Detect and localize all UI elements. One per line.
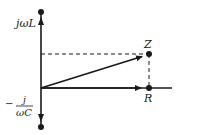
- resistance-label: R: [143, 92, 152, 105]
- capacitive-denominator: ωC: [16, 107, 32, 118]
- inductive-label: jωL: [13, 17, 36, 30]
- impedance-label: Z: [143, 38, 152, 51]
- up-arrow-icon: [38, 17, 44, 25]
- bottom-point: [38, 124, 44, 130]
- down-arrow-icon: [38, 114, 44, 122]
- impedance-point: [146, 51, 152, 57]
- top-point: [38, 9, 44, 15]
- capacitive-sign: −: [5, 98, 13, 109]
- capacitive-numerator: j: [21, 95, 26, 105]
- resistance-point: [146, 85, 152, 91]
- phasor-diagram: jωL Z R − j ωC: [0, 0, 210, 135]
- impedance-vector: [41, 57, 142, 89]
